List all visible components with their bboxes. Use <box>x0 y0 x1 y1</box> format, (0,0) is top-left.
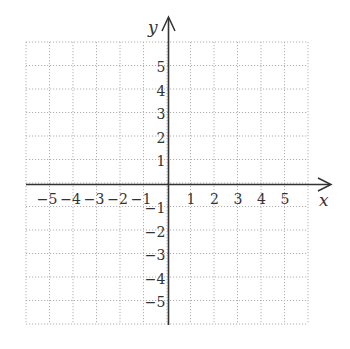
x-tick-label: −3 <box>84 191 105 207</box>
x-tick-label: 5 <box>281 191 290 207</box>
y-tick-label: −3 <box>145 247 166 263</box>
grid-lines <box>26 42 308 324</box>
y-tick-label: 2 <box>157 130 166 146</box>
y-tick-label: 1 <box>157 153 166 169</box>
x-tick-label: −5 <box>37 191 58 207</box>
x-tick-label: 4 <box>257 191 266 207</box>
y-tick-label: 3 <box>157 106 166 122</box>
coordinate-plane: x y −5−4−3−2−112345 54321−1−2−3−4−5 <box>0 0 350 349</box>
y-tick-label: −5 <box>145 294 166 310</box>
y-tick-label: −4 <box>145 271 166 287</box>
x-tick-label: −2 <box>107 191 128 207</box>
axes <box>26 17 331 325</box>
y-tick-label: −1 <box>145 200 166 216</box>
x-tick-label: −4 <box>60 191 81 207</box>
x-tick-label: 1 <box>187 191 196 207</box>
y-tick-label: 4 <box>157 83 166 99</box>
x-tick-label: 3 <box>234 191 243 207</box>
x-axis-label: x <box>319 190 329 210</box>
y-tick-label: 5 <box>157 59 166 75</box>
y-axis-label: y <box>147 17 158 37</box>
x-tick-label: 2 <box>210 191 219 207</box>
y-tick-label: −2 <box>145 224 166 240</box>
